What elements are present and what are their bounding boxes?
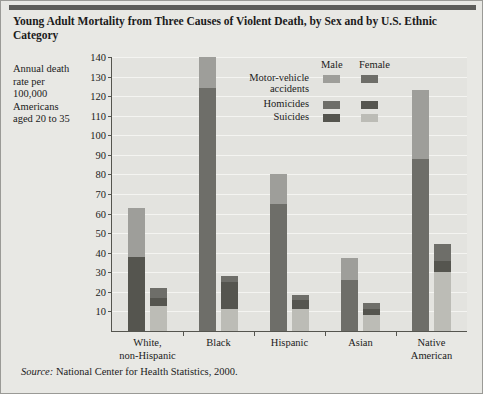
bar-segment xyxy=(150,288,167,298)
bar-segment xyxy=(221,309,238,331)
bar-segment xyxy=(434,244,451,261)
y-axis-tick-label: 30 xyxy=(96,267,107,278)
legend-label: Suicides xyxy=(273,111,309,122)
y-axis-tick-label: 140 xyxy=(90,52,106,63)
legend-header-row: Male Female xyxy=(231,59,421,72)
y-axis-tick xyxy=(108,155,112,156)
y-axis-tick-label: 70 xyxy=(96,189,107,200)
y-axis-tick xyxy=(108,77,112,78)
x-axis-tick xyxy=(183,331,184,336)
bar-segment xyxy=(363,309,380,316)
source-text: National Center for Health Statistics, 2… xyxy=(53,366,237,377)
y-axis-tick-label: 130 xyxy=(90,71,106,82)
bar-segment xyxy=(221,282,238,309)
bar-segment xyxy=(292,300,309,310)
bar-segment xyxy=(150,306,167,331)
figure-panel: Young Adult Mortality from Three Causes … xyxy=(0,0,483,394)
legend-label: Motor-vehicleaccidents xyxy=(249,72,309,94)
y-axis-tick xyxy=(108,174,112,175)
top-rule-divider xyxy=(9,5,476,10)
y-axis-tick-label: 20 xyxy=(96,286,107,297)
x-axis-tick xyxy=(254,331,255,336)
bar-male xyxy=(412,90,429,331)
bar-segment xyxy=(270,174,287,203)
y-axis-tick-label: 110 xyxy=(91,110,106,121)
y-axis-tick xyxy=(108,214,112,215)
y-axis-caption: Annual death rate per 100,000 Americans … xyxy=(13,63,79,126)
y-axis-tick-label: 40 xyxy=(96,247,107,258)
y-axis-tick xyxy=(108,253,112,254)
y-axis-tick-label: 50 xyxy=(96,228,107,239)
y-axis-tick xyxy=(108,233,112,234)
y-axis-tick-label: 120 xyxy=(90,91,106,102)
bar-female xyxy=(221,276,238,331)
y-axis-tick-label: 90 xyxy=(96,149,107,160)
y-axis-tick xyxy=(108,194,112,195)
bar-female xyxy=(150,288,167,331)
legend-swatch-male xyxy=(323,75,340,83)
legend-rows: Motor-vehicleaccidentsHomicidesSuicides xyxy=(231,72,421,124)
bar-female xyxy=(292,295,309,331)
legend-swatch-female xyxy=(361,75,378,83)
legend-swatch-female xyxy=(361,114,378,122)
chart-legend: Male Female Motor-vehicleaccidentsHomici… xyxy=(231,59,421,124)
figure-title: Young Adult Mortality from Three Causes … xyxy=(13,15,463,42)
bar-male xyxy=(199,57,216,331)
bar-segment xyxy=(434,261,451,273)
y-axis-tick-label: 60 xyxy=(96,208,107,219)
legend-swatch-female xyxy=(361,101,378,109)
gridline xyxy=(112,57,467,58)
bar-segment xyxy=(341,258,358,281)
legend-row: Homicides xyxy=(231,98,421,111)
bar-segment xyxy=(292,295,309,300)
bar-segment xyxy=(363,303,380,309)
y-axis-tick xyxy=(108,292,112,293)
legend-row: Motor-vehicleaccidents xyxy=(231,72,421,98)
bar-segment xyxy=(412,159,429,331)
bar-segment xyxy=(199,57,216,88)
x-axis-category-label: Native American xyxy=(387,337,477,362)
y-axis-tick-label: 100 xyxy=(90,130,106,141)
y-axis-tick xyxy=(108,311,112,312)
bar-segment xyxy=(363,315,380,331)
y-axis-tick xyxy=(108,272,112,273)
source-note: Source: National Center for Health Stati… xyxy=(21,366,238,377)
source-label: Source: xyxy=(21,366,53,377)
x-axis-tick xyxy=(396,331,397,336)
bar-segment xyxy=(270,204,287,331)
bar-male xyxy=(128,208,145,331)
y-axis-tick xyxy=(108,116,112,117)
bar-segment xyxy=(221,276,238,282)
bar-segment xyxy=(128,208,145,257)
legend-label: Homicides xyxy=(264,98,310,109)
x-axis-tick xyxy=(325,331,326,336)
y-axis-tick-label: 80 xyxy=(96,169,107,180)
legend-swatch-male xyxy=(323,114,340,122)
y-axis-tick xyxy=(108,135,112,136)
bar-segment xyxy=(292,309,309,331)
y-axis-tick xyxy=(108,57,112,58)
bar-segment xyxy=(128,257,145,331)
bar-male xyxy=(270,174,287,331)
bar-segment xyxy=(341,280,358,331)
bar-female xyxy=(363,303,380,331)
y-axis-tick-label: 10 xyxy=(96,306,107,317)
legend-female-header: Female xyxy=(359,59,390,70)
legend-swatch-male xyxy=(323,101,340,109)
y-axis-tick xyxy=(108,96,112,97)
legend-row: Suicides xyxy=(231,111,421,124)
bar-male xyxy=(341,258,358,331)
legend-male-header: Male xyxy=(321,59,343,70)
bar-segment xyxy=(199,88,216,331)
bar-female xyxy=(434,244,451,331)
bar-segment xyxy=(434,272,451,331)
bar-segment xyxy=(150,298,167,306)
